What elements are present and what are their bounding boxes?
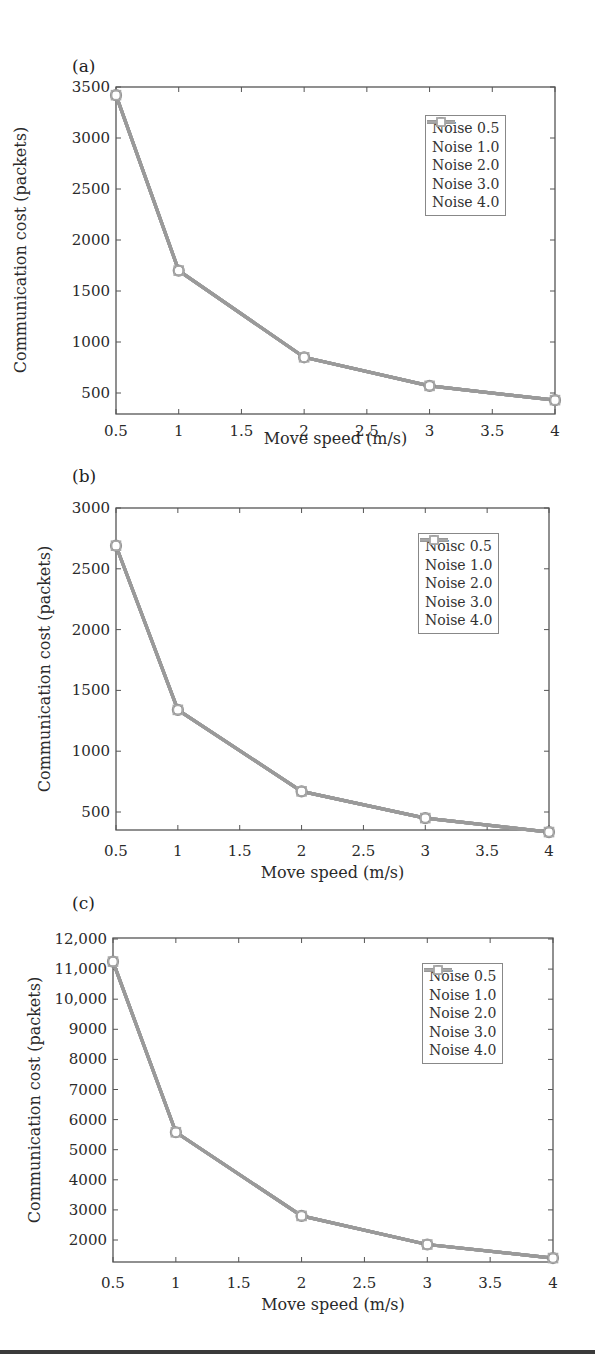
x-tick-label: 1.5 [227, 1274, 251, 1292]
x-tick-label: 0.5 [101, 1274, 125, 1292]
y-axis-title: Communication cost (packets) [25, 977, 44, 1223]
x-tick-label: 3.5 [478, 1274, 502, 1292]
y-tick-label: 12,000 [55, 930, 108, 948]
legend-item: Noise 3.0 [429, 1023, 496, 1042]
x-tick-label: 1 [171, 1274, 181, 1292]
legend-label: Noise 1.0 [429, 987, 496, 1003]
bottom-rule-divider [0, 1350, 595, 1354]
data-point-marker [548, 1253, 558, 1263]
y-tick-label: 7000 [69, 1081, 107, 1099]
x-tick-label: 2 [297, 1274, 307, 1292]
data-point-marker [108, 957, 118, 967]
legend-item: Noise 4.0 [429, 1041, 496, 1060]
x-tick-label: 3 [423, 1274, 433, 1292]
data-point-marker [171, 1127, 181, 1137]
legend-label: Noise 3.0 [429, 1024, 496, 1040]
y-tick-label: 2000 [69, 1231, 107, 1249]
x-tick-label: 4 [548, 1274, 558, 1292]
y-tick-label: 9000 [69, 1020, 107, 1038]
legend-marker-icon [423, 964, 453, 976]
chart-legend: Noise 0.5Noise 1.0Noise 2.0Noise 3.0Nois… [422, 963, 503, 1064]
y-tick-label: 5000 [69, 1141, 107, 1159]
y-tick-label: 11,000 [55, 960, 108, 978]
y-tick-label: 10,000 [55, 990, 108, 1008]
legend-item: Noise 2.0 [429, 1004, 496, 1023]
y-tick-label: 6000 [69, 1111, 107, 1129]
chart-panel-c: (c) 0.511.522.533.5420003000400050006000… [0, 0, 595, 1340]
y-tick-label: 8000 [69, 1050, 107, 1068]
legend-label: Noise 4.0 [429, 1042, 496, 1058]
y-tick-label: 3000 [69, 1201, 107, 1219]
legend-label: Noise 2.0 [429, 1005, 496, 1021]
line-chart-c: 0.511.522.533.54200030004000500060007000… [0, 0, 595, 1340]
legend-item: Noise 1.0 [429, 986, 496, 1005]
data-point-marker [297, 1211, 307, 1221]
x-axis-title: Move speed (m/s) [261, 1295, 405, 1314]
data-point-marker [422, 1240, 432, 1250]
x-tick-label: 2.5 [352, 1274, 376, 1292]
y-tick-label: 4000 [69, 1171, 107, 1189]
